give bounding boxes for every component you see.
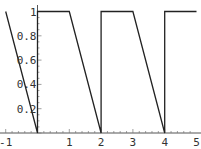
y-tick-label: 0.4 [17, 78, 37, 91]
y-tick-label: 0.6 [17, 54, 37, 67]
x-tick-label: -1 [0, 136, 12, 149]
y-tick-label: 0.2 [17, 103, 37, 116]
chart: -1123450.20.40.60.81 [0, 0, 201, 149]
x-tick-label: 5 [193, 136, 200, 149]
x-tick-label: 3 [130, 136, 137, 149]
y-tick-label: 1 [30, 6, 37, 19]
y-tick-label: 0.8 [17, 30, 37, 43]
x-tick-label: 1 [66, 136, 73, 149]
x-tick-label: 2 [98, 136, 105, 149]
x-tick-label: 4 [161, 136, 168, 149]
